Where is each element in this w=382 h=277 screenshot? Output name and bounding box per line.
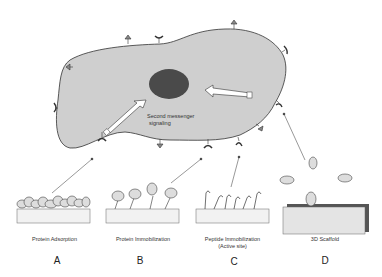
panel-c-caption: Peptide Immobilization	[190, 236, 275, 242]
receptor-y-icon	[276, 100, 282, 107]
panel-a-letter: A	[47, 255, 67, 266]
receptor-y-icon	[155, 36, 163, 43]
nucleus	[149, 69, 189, 99]
signal-label: Second messenger signaling	[147, 113, 194, 127]
panel-b-letter: B	[130, 255, 150, 266]
panel-c-letter: C	[224, 256, 244, 267]
receptor-y-icon	[236, 137, 242, 146]
receptor-triangle-icon	[157, 139, 163, 148]
signal-label-line2: signaling	[147, 120, 194, 127]
panel-d-scaffold	[280, 157, 369, 234]
panel-d-caption: 3D Scaffold	[290, 236, 360, 242]
receptor-triangle-icon	[231, 20, 237, 29]
panel-c-caption2: (Active site)	[190, 243, 275, 249]
panel-c-surface	[196, 191, 269, 223]
receptor-triangle-icon	[256, 124, 263, 131]
signal-label-line1: Second messenger	[147, 113, 194, 120]
receptor-y-icon	[282, 46, 287, 54]
panel-d-letter: D	[315, 255, 335, 266]
panel-a-caption: Protein Adsorption	[18, 236, 91, 242]
receptor-triangle-icon	[125, 35, 131, 44]
panel-a-surface	[17, 196, 90, 223]
panel-b-caption: Protein Immobilization	[103, 236, 183, 242]
panel-b-surface	[106, 183, 179, 223]
